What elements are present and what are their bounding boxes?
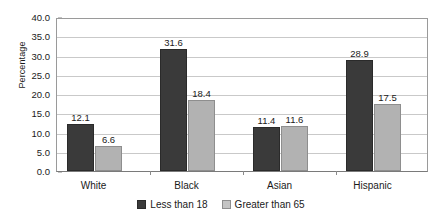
bar[interactable] <box>253 127 280 171</box>
bar-value-label: 31.6 <box>156 38 191 48</box>
legend-label: Less than 18 <box>150 199 207 210</box>
legend-color-swatch-icon <box>137 200 146 209</box>
bar-group: 11.411.6 <box>243 18 336 171</box>
bar[interactable] <box>374 104 401 171</box>
bar[interactable] <box>281 126 308 171</box>
bar-value-label: 12.1 <box>63 113 98 123</box>
y-axis-tick-label: 15.0 <box>6 110 50 120</box>
x-axis-category-label: Black <box>174 180 198 192</box>
plot-area: 12.16.631.618.411.411.628.917.5 <box>56 18 428 172</box>
x-axis-category-labels: WhiteBlackAsianHispanic <box>56 180 428 194</box>
x-axis-category-label: White <box>81 180 107 192</box>
bar[interactable] <box>67 124 94 171</box>
y-axis-tick-label: 35.0 <box>6 33 50 43</box>
legend-item[interactable]: Greater than 65 <box>222 199 305 210</box>
x-axis-tick-mark <box>243 171 244 175</box>
bar-value-label: 6.6 <box>91 135 126 145</box>
bar[interactable] <box>188 100 215 171</box>
x-axis-tick-mark <box>336 171 337 175</box>
x-axis-category-label: Asian <box>267 180 292 192</box>
bar-group: 12.16.6 <box>57 18 150 171</box>
bar-group: 31.618.4 <box>150 18 243 171</box>
chart-legend: Less than 18Greater than 65 <box>0 199 442 210</box>
bar-chart: Percentage 0.05.010.015.020.025.030.035.… <box>0 0 442 222</box>
x-axis-tick-mark <box>150 171 151 175</box>
bar-value-label: 28.9 <box>342 49 377 59</box>
y-axis-tick-label: 10.0 <box>6 129 50 139</box>
y-axis-tick-label: 25.0 <box>6 71 50 81</box>
bar[interactable] <box>95 146 122 171</box>
y-axis-tick-label: 40.0 <box>6 13 50 23</box>
y-axis-tick-labels: 0.05.010.015.020.025.030.035.040.0 <box>6 18 50 172</box>
bar-value-label: 11.6 <box>277 115 312 125</box>
x-axis-category-label: Hispanic <box>353 180 391 192</box>
bar[interactable] <box>160 49 187 171</box>
legend-item[interactable]: Less than 18 <box>137 199 207 210</box>
y-axis-tick-label: 30.0 <box>6 52 50 62</box>
y-axis-tick-label: 5.0 <box>6 148 50 158</box>
bar-group: 28.917.5 <box>336 18 429 171</box>
legend-color-swatch-icon <box>222 200 231 209</box>
bar[interactable] <box>346 60 373 171</box>
bar-value-label: 18.4 <box>184 89 219 99</box>
bar-value-label: 17.5 <box>370 93 405 103</box>
y-axis-tick-label: 0.0 <box>6 167 50 177</box>
y-axis-tick-label: 20.0 <box>6 90 50 100</box>
legend-label: Greater than 65 <box>235 199 305 210</box>
